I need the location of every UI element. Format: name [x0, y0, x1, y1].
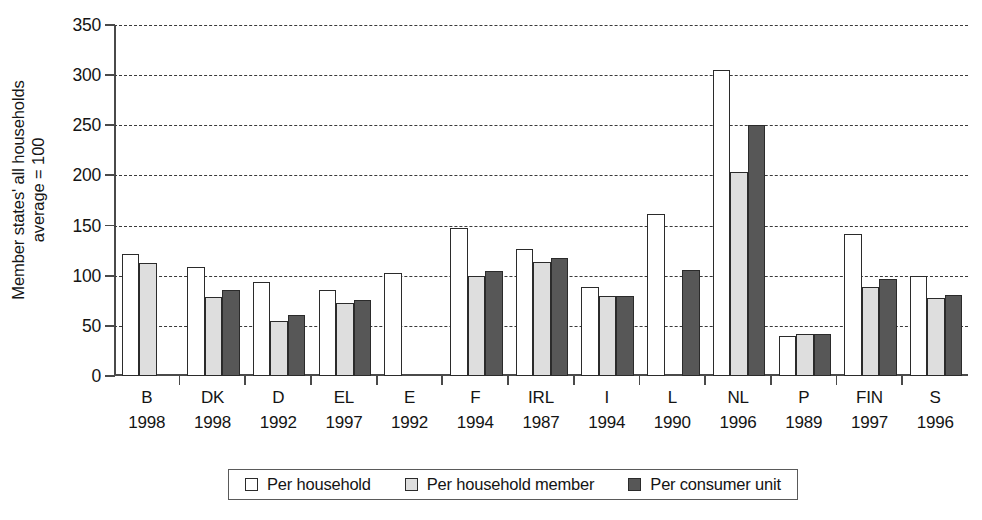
x-category-code: L [640, 386, 706, 411]
bar-S-series1 [927, 298, 945, 376]
bar-B-series0 [122, 254, 140, 376]
bar-FIN-series2 [879, 279, 897, 376]
bar-S-series2 [945, 295, 963, 376]
bar-group-S [902, 25, 968, 376]
x-category-year: 1997 [837, 411, 903, 436]
bar-L-series2 [682, 270, 700, 376]
bar-IRL-series1 [533, 262, 551, 376]
x-category-code: IRL [508, 386, 574, 411]
bar-I-series1 [599, 296, 617, 376]
x-tick-NL [704, 375, 706, 385]
x-category-year: 1996 [902, 411, 968, 436]
y-tick-label-50: 50 [82, 315, 101, 336]
x-category-code: EL [311, 386, 377, 411]
x-category-S: S1996 [902, 386, 968, 435]
x-category-year: 1997 [311, 411, 377, 436]
x-category-code: B [114, 386, 180, 411]
x-category-P: P1989 [771, 386, 837, 435]
x-category-year: 1990 [640, 411, 706, 436]
bar-DK-series2 [222, 290, 240, 376]
bar-group-NL [705, 25, 771, 376]
legend-item-2: Per consumer unit [628, 475, 781, 494]
x-tick-I [573, 375, 575, 385]
bar-L-series0 [647, 214, 665, 376]
x-category-EL: EL1997 [311, 386, 377, 435]
y-tick-label-100: 100 [72, 265, 101, 286]
bar-NL-series1 [730, 172, 748, 376]
y-tick-label-300: 300 [72, 65, 101, 86]
bar-NL-series2 [748, 125, 766, 376]
x-category-code: S [902, 386, 968, 411]
bar-IRL-series0 [516, 249, 534, 376]
x-category-code: D [245, 386, 311, 411]
x-category-IRL: IRL1987 [508, 386, 574, 435]
x-category-year: 1998 [180, 411, 246, 436]
bar-FIN-series1 [862, 287, 880, 376]
x-tick-DK [179, 375, 181, 385]
y-axis-title: Member states' all households average = … [0, 0, 56, 380]
bar-group-F [442, 25, 508, 376]
bar-group-L [640, 25, 706, 376]
bar-IRL-series2 [551, 258, 569, 376]
x-category-E: E1992 [377, 386, 443, 435]
x-tick-E [376, 375, 378, 385]
y-tick-label-150: 150 [72, 215, 101, 236]
x-category-year: 1987 [508, 411, 574, 436]
plot-area: 050100150200250300350 [114, 25, 968, 376]
x-category-L: L1990 [640, 386, 706, 435]
bar-D-series0 [253, 282, 271, 376]
x-category-year: 1998 [114, 411, 180, 436]
bar-F-series1 [468, 276, 486, 376]
legend-label: Per consumer unit [650, 475, 781, 494]
x-category-code: F [442, 386, 508, 411]
x-tick-EL [310, 375, 312, 385]
x-tick-FIN [836, 375, 838, 385]
x-category-I: I1994 [574, 386, 640, 435]
y-tick-label-250: 250 [72, 115, 101, 136]
chart-legend: Per householdPer household memberPer con… [228, 469, 798, 500]
x-category-D: D1992 [245, 386, 311, 435]
x-axis-labels: B1998DK1998D1992EL1997E1992F1994IRL1987I… [114, 386, 968, 450]
legend-item-0: Per household [245, 475, 371, 494]
bar-EL-series0 [319, 290, 337, 376]
bar-F-series0 [450, 228, 468, 376]
x-category-code: E [377, 386, 443, 411]
x-category-code: I [574, 386, 640, 411]
bar-group-FIN [837, 25, 903, 376]
bar-NL-series0 [713, 70, 731, 376]
bar-E-series0 [384, 273, 402, 376]
bar-F-series2 [485, 271, 503, 376]
bar-groups [114, 25, 968, 376]
legend-item-1: Per household member [405, 475, 595, 494]
x-category-year: 1996 [705, 411, 771, 436]
x-category-code: NL [705, 386, 771, 411]
bar-group-P [771, 25, 837, 376]
x-category-year: 1992 [377, 411, 443, 436]
bar-group-D [245, 25, 311, 376]
y-tick-label-0: 0 [91, 366, 101, 387]
y-tick-label-200: 200 [72, 165, 101, 186]
x-category-year: 1994 [574, 411, 640, 436]
x-category-F: F1994 [442, 386, 508, 435]
x-category-year: 1992 [245, 411, 311, 436]
x-tick-F [441, 375, 443, 385]
bar-group-I [574, 25, 640, 376]
bar-S-series0 [910, 276, 928, 376]
bar-EL-series2 [354, 300, 372, 376]
bar-DK-series1 [205, 297, 223, 376]
bar-P-series0 [779, 336, 797, 376]
x-tick-P [770, 375, 772, 385]
x-category-NL: NL1996 [705, 386, 771, 435]
bar-P-series2 [814, 334, 832, 376]
x-category-FIN: FIN1997 [837, 386, 903, 435]
bar-group-E [377, 25, 443, 376]
legend-label: Per household member [427, 475, 595, 494]
bar-B-series1 [139, 263, 157, 376]
x-category-DK: DK1998 [180, 386, 246, 435]
light-gray-square-icon [405, 478, 418, 491]
bar-P-series1 [796, 334, 814, 376]
bar-group-IRL [508, 25, 574, 376]
x-category-code: P [771, 386, 837, 411]
x-tick-D [244, 375, 246, 385]
x-category-year: 1989 [771, 411, 837, 436]
